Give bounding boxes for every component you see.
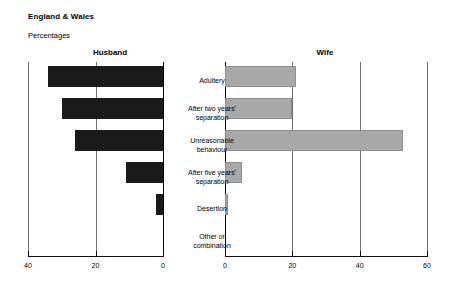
bar-husband-4: [156, 194, 163, 215]
category-label-3: After five years'separation: [166, 168, 258, 186]
tick-husband-40-mark: [28, 251, 29, 257]
gridline-wife-60: [427, 62, 428, 256]
chart-container: England & Wales Percentages Husband Wife…: [0, 0, 456, 286]
gridline-wife-0: [225, 62, 226, 256]
tick-wife-0-label: 0: [213, 262, 237, 269]
category-label-line: separation: [166, 113, 258, 122]
tick-husband-20-mark: [96, 251, 97, 257]
category-label-line: separation: [166, 177, 258, 186]
category-label-line: After five years': [166, 168, 258, 177]
tick-wife-40-label: 40: [348, 262, 372, 269]
gridline-husband-40: [28, 62, 29, 256]
chart-subtitle: Percentages: [28, 31, 70, 40]
tick-husband-20-label: 20: [84, 262, 108, 269]
category-label-line: Adultery: [166, 76, 258, 85]
category-label-line: combination: [166, 241, 258, 250]
tick-husband-40-label: 40: [16, 262, 40, 269]
tick-husband-0-label: 0: [151, 262, 175, 269]
category-label-2: Unreasonablebehaviour: [166, 136, 258, 154]
gridline-wife-20: [292, 62, 293, 256]
bar-husband-1: [62, 98, 163, 119]
page-title: England & Wales: [28, 12, 94, 21]
tick-husband-0-mark: [163, 251, 164, 257]
gridline-husband-0: [163, 62, 164, 256]
tick-wife-40-mark: [360, 251, 361, 257]
category-label-0: Adultery: [166, 76, 258, 85]
bar-husband-2: [75, 130, 163, 151]
tick-wife-20-mark: [292, 251, 293, 257]
category-label-line: behaviour: [166, 145, 258, 154]
category-label-4: Desertion: [166, 204, 258, 213]
category-label-line: After two years': [166, 104, 258, 113]
tick-wife-0-mark: [225, 251, 226, 257]
tick-wife-60-mark: [427, 251, 428, 257]
wife-panel-heading: Wife: [275, 48, 375, 57]
gridline-husband-20: [96, 62, 97, 256]
category-label-line: Unreasonable: [166, 136, 258, 145]
bar-husband-0: [48, 66, 163, 87]
category-label-line: Desertion: [166, 204, 258, 213]
tick-wife-20-label: 20: [280, 262, 304, 269]
bar-husband-3: [126, 162, 163, 183]
category-label-line: Other or: [166, 232, 258, 241]
category-label-1: After two years'separation: [166, 104, 258, 122]
gridline-wife-40: [360, 62, 361, 256]
tick-wife-60-label: 60: [415, 262, 439, 269]
category-label-5: Other orcombination: [166, 232, 258, 250]
right-axis-line: [225, 256, 427, 257]
husband-panel-heading: Husband: [60, 48, 160, 57]
